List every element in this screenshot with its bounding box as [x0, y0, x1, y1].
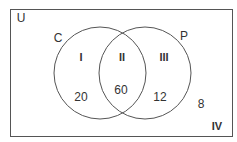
circle-c — [54, 27, 146, 119]
region-i-label: I — [79, 52, 82, 63]
region-iv-value: 8 — [198, 98, 205, 110]
region-iv-label: IV — [212, 121, 222, 132]
region-iii-label: III — [159, 52, 168, 63]
set-p-label: P — [180, 30, 188, 42]
region-ii-label: II — [119, 52, 125, 63]
set-c-label: C — [54, 32, 63, 44]
universe-rectangle — [11, 10, 233, 137]
circle-p — [99, 27, 191, 119]
universe-label: U — [17, 12, 26, 24]
venn-diagram — [0, 0, 237, 142]
region-iii-value: 12 — [153, 91, 166, 103]
region-i-value: 20 — [74, 91, 87, 103]
region-ii-value: 60 — [114, 84, 127, 96]
